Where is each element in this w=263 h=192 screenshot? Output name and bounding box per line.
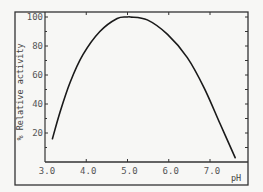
- x-tick-label: 7.0: [204, 166, 220, 176]
- outer-frame: [15, 12, 248, 185]
- y-axis-title: % Relative activity: [15, 43, 25, 140]
- x-tick-label: 6.0: [163, 166, 179, 176]
- x-tick-label: 3.0: [39, 166, 55, 176]
- y-tick-label: 40: [32, 99, 43, 109]
- activity-curve: [52, 17, 235, 158]
- x-tick-label: 4.0: [80, 166, 96, 176]
- y-tick-label: 100: [27, 12, 43, 22]
- x-axis-title: pH: [231, 173, 241, 183]
- y-tick-label: 60: [32, 70, 43, 80]
- ph-activity-chart: 3.04.05.06.07.0 20406080100 pH % Relativ…: [0, 0, 263, 192]
- y-tick-label: 20: [32, 128, 43, 138]
- x-tick-label: 5.0: [121, 166, 137, 176]
- y-tick-label: 80: [32, 41, 43, 51]
